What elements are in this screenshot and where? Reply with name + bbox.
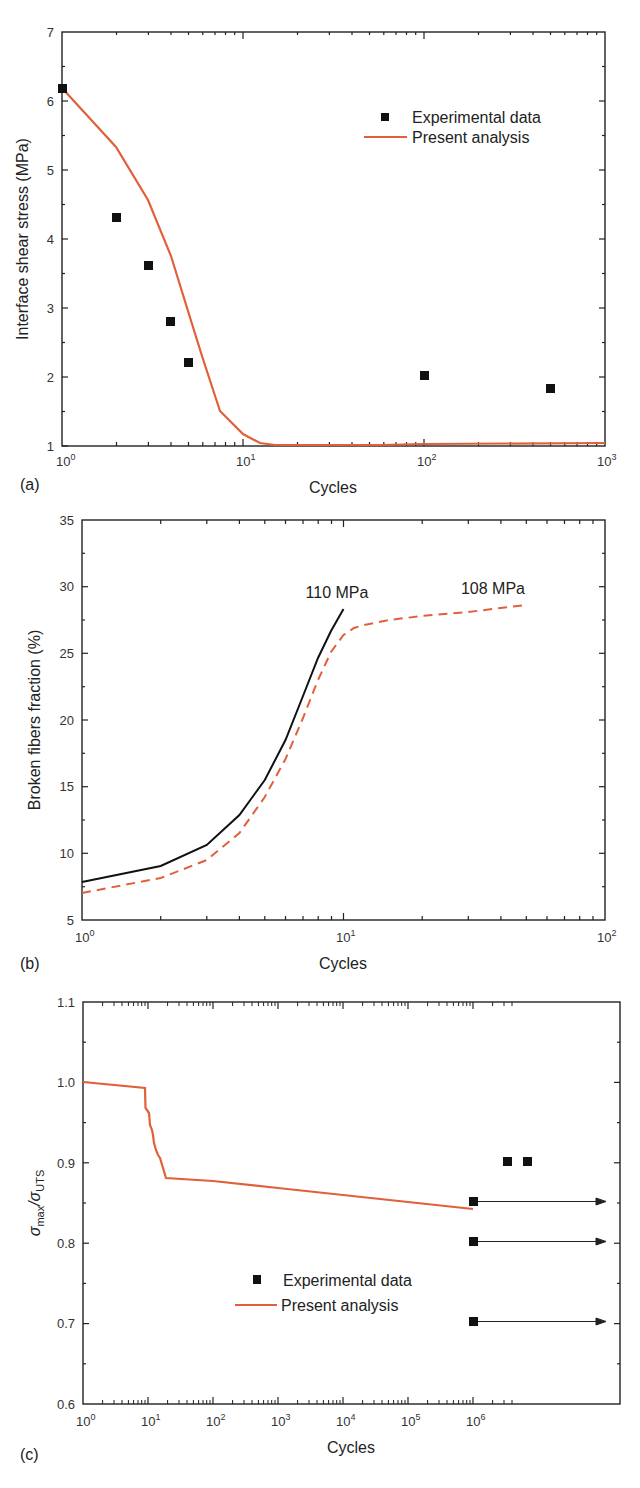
x-ticks-a: [117, 32, 597, 446]
y-tick-label: 25: [60, 646, 74, 661]
x-tick-labels-c: 100 101 102 103 104 105 106: [76, 1412, 485, 1429]
y-tick-label: 0.6: [57, 1397, 75, 1412]
curve-110mpa: [82, 609, 344, 882]
panel-a: 1 2 3 4 5 6 7 100 101 102 103 Cycles Int…: [14, 25, 616, 496]
svg-text:100: 100: [56, 452, 75, 469]
y-axis-title-a: Interface shear stress (MPa): [14, 138, 31, 340]
svg-text:100: 100: [75, 928, 94, 945]
y-ticks-b: [82, 553, 605, 886]
x-axis-title-c: Cycles: [327, 1439, 375, 1456]
curve-108mpa: [82, 605, 526, 893]
svg-text:102: 102: [597, 928, 616, 945]
plot-frame-a: [62, 32, 605, 446]
svg-text:103: 103: [597, 452, 616, 469]
y-tick-label: 10: [60, 846, 74, 861]
panel-c: 0.6 0.7 0.8 0.9 1.0 1.1 100 101 102 103 …: [20, 995, 620, 1463]
svg-text:101: 101: [336, 928, 355, 945]
y-tick-label: 5: [47, 163, 54, 178]
x-tick-labels-a: 100 101 102 103: [56, 452, 616, 469]
svg-text:102: 102: [206, 1412, 225, 1429]
svg-text:101: 101: [141, 1412, 160, 1429]
y-tick-label: 1: [47, 439, 54, 454]
plot-frame-c: [83, 1002, 620, 1404]
svg-text:102: 102: [417, 452, 436, 469]
y-tick-label: 0.9: [57, 1156, 75, 1171]
x-minor-ticks-c: [103, 1002, 512, 1404]
legend-label-exp: Experimental data: [412, 109, 541, 126]
y-axis-title-c: σmax/σUTS: [26, 1170, 46, 1237]
y-tick-label: 0.8: [57, 1236, 75, 1251]
y-tick-label: 1.0: [57, 1075, 75, 1090]
panel-b: 5 10 15 20 25 30 35 100 101 102 Cycles B…: [20, 513, 616, 972]
y-tick-label: 6: [47, 94, 54, 109]
figure: 1 2 3 4 5 6 7 100 101 102 103 Cycles Int…: [0, 0, 640, 1488]
svg-text:101: 101: [236, 452, 255, 469]
y-tick-label: 15: [60, 779, 74, 794]
legend-label-model: Present analysis: [412, 129, 529, 146]
legend-square-icon: [381, 113, 389, 121]
y-tick-label: 1.1: [57, 995, 75, 1010]
label-108mpa: 108 MPa: [461, 580, 525, 597]
panel-tag-c: (c): [20, 1446, 39, 1463]
legend-label-exp: Experimental data: [283, 1272, 412, 1289]
legend-c: Experimental data Present analysis: [235, 1272, 412, 1314]
svg-text:103: 103: [271, 1412, 290, 1429]
svg-text:105: 105: [401, 1412, 420, 1429]
legend-label-model: Present analysis: [281, 1297, 398, 1314]
plot-frame-b: [82, 520, 605, 920]
x-axis-title-b: Cycles: [319, 955, 367, 972]
panel-tag-b: (b): [20, 955, 40, 972]
model-line-c: [83, 1082, 473, 1209]
svg-text:106: 106: [466, 1412, 485, 1429]
y-tick-label: 5: [67, 913, 74, 928]
y-tick-label: 7: [47, 25, 54, 40]
legend-a: Experimental data Present analysis: [364, 109, 541, 146]
y-tick-label: 0.7: [57, 1316, 75, 1331]
runout-arrow-icons: [478, 1198, 606, 1325]
y-ticks-c: [83, 1042, 620, 1364]
label-110mpa: 110 MPa: [306, 584, 369, 601]
y-tick-label: 30: [60, 579, 74, 594]
y-tick-label: 4: [47, 232, 54, 247]
panel-tag-a: (a): [20, 476, 40, 493]
x-tick-labels-b: 100 101 102: [75, 928, 616, 945]
y-axis-title-b: Broken fibers fraction (%): [26, 630, 43, 811]
y-tick-label: 2: [47, 370, 54, 385]
x-ticks-b: [161, 520, 593, 920]
y-tick-label: 3: [47, 301, 54, 316]
y-tick-label: 20: [60, 713, 74, 728]
svg-text:100: 100: [76, 1412, 95, 1429]
svg-text:104: 104: [336, 1412, 355, 1429]
x-axis-title-a: Cycles: [309, 479, 357, 496]
y-tick-label: 35: [60, 513, 74, 528]
legend-square-icon: [253, 1275, 261, 1284]
